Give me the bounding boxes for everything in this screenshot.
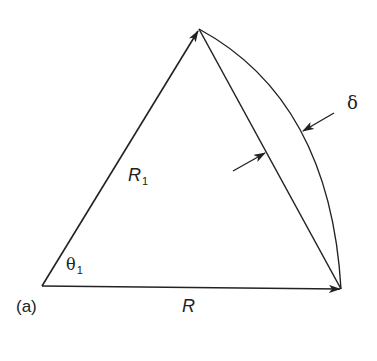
label-theta1: θ1: [66, 257, 83, 273]
label-delta: δ: [347, 94, 358, 112]
delta-arrow-outer: [303, 113, 334, 131]
vector-r1: [42, 31, 198, 286]
label-r: R: [182, 297, 195, 315]
label-r1-text: R: [128, 165, 141, 185]
diagram-canvas: R1 R θ1 δ (a): [0, 0, 377, 361]
theta-symbol: θ: [66, 255, 76, 274]
panel-label: (a): [16, 298, 37, 315]
label-r1: R1: [128, 166, 148, 184]
theta-subscript: 1: [77, 264, 83, 276]
delta-arrow-inner: [233, 153, 265, 171]
chord-line: [199, 29, 341, 289]
vector-r: [42, 286, 340, 289]
label-r1-subscript: 1: [142, 175, 148, 187]
